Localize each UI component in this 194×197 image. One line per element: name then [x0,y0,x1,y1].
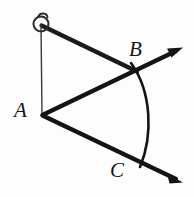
vertex-label-c: C [110,160,124,181]
geometry-figure: A B C [0,0,194,197]
vertex-label-b: B [129,39,142,60]
construction-arc [131,63,149,167]
ray-AB [43,51,177,115]
compass-leg-line [41,25,42,115]
vertex-label-a: A [14,100,27,121]
compass-arm-segment [42,26,138,72]
figure-canvas [0,0,194,197]
ray-AC-arrowhead-icon [167,174,183,184]
